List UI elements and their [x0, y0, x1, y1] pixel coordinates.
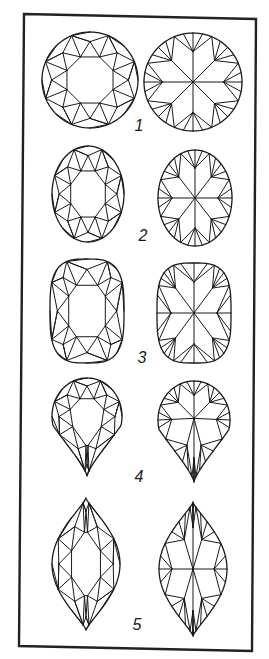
facet-edge: [179, 154, 181, 177]
facet-edge: [94, 395, 107, 399]
facet-edge: [113, 90, 134, 99]
facet-edge: [80, 386, 87, 399]
facet-edge: [195, 164, 221, 198]
marquise-pavilion-drawing: [159, 502, 227, 636]
facet-edge: [223, 82, 238, 101]
facet-edge: [69, 326, 77, 337]
facet-edge: [183, 112, 193, 130]
facet-edge: [86, 625, 89, 630]
facet-edge: [76, 456, 85, 471]
facet-edge: [159, 198, 172, 207]
facet-edge: [223, 82, 241, 92]
facet-edge: [193, 37, 212, 52]
facet-edge: [95, 204, 105, 218]
facet-edge: [193, 47, 228, 82]
round-brilliant-pavilion-drawing: [144, 33, 242, 131]
facet-edge: [105, 184, 117, 194]
facet-edge: [161, 405, 172, 419]
facet-edge: [188, 151, 195, 168]
facet-edge: [89, 503, 97, 527]
facet-edge: [180, 384, 194, 395]
facet-edge: [55, 204, 71, 213]
facet-edge: [67, 90, 81, 104]
facet-edge: [195, 228, 209, 243]
facet-edge: [105, 194, 117, 204]
facet-edge: [87, 337, 98, 353]
facet-edge: [71, 171, 81, 185]
figure-number-label: 3: [138, 349, 147, 366]
facet-edge: [90, 36, 108, 42]
facet-edge: [195, 151, 202, 168]
facet-edge: [71, 204, 81, 218]
facet-edge: [214, 61, 238, 64]
facet-edge: [148, 63, 163, 82]
facet-edge: [76, 269, 87, 285]
facet-edge: [216, 412, 229, 419]
facet-edge: [98, 285, 106, 296]
facet-edge: [68, 167, 81, 171]
facet-edge: [202, 540, 221, 544]
pear-pavilion-drawing: [158, 381, 230, 482]
facet-edge: [63, 90, 67, 108]
facet-edge: [63, 103, 81, 107]
facet-edge: [212, 37, 215, 61]
facet-edge: [100, 57, 114, 71]
facet-edge: [193, 34, 203, 52]
facet-edge: [218, 189, 231, 198]
facet-edge: [88, 217, 95, 232]
oval-crown-drawing: [52, 146, 124, 242]
facet-edge: [218, 198, 231, 207]
facet-edge: [72, 103, 81, 124]
facet-edge: [179, 219, 181, 242]
facet-edge: [75, 527, 85, 533]
facet-edge: [181, 228, 195, 243]
facet-edge: [158, 82, 193, 117]
facet-edge: [58, 564, 59, 589]
facet-edge: [52, 70, 67, 80]
facet-edge: [55, 176, 71, 185]
facet-edge: [68, 167, 71, 185]
facet-edge: [95, 217, 102, 238]
facet-edge: [113, 90, 117, 108]
facet-edge: [105, 167, 108, 185]
facet-edge: [46, 62, 67, 71]
facet-edge: [78, 446, 86, 449]
facet-edge: [101, 427, 114, 435]
facet-edge: [90, 103, 100, 118]
facet-edge: [94, 381, 100, 399]
facet-edge: [193, 112, 203, 130]
facet-edge: [69, 285, 77, 296]
facet-edge: [68, 204, 71, 222]
facet-edge: [158, 47, 193, 82]
facet-edge: [172, 37, 175, 61]
facet-edge: [94, 399, 104, 410]
oval-pavilion-drawing: [158, 150, 232, 246]
facet-edge: [46, 62, 52, 80]
facet-edge: [70, 399, 80, 410]
facet-edge: [223, 63, 238, 82]
facet-edge: [107, 345, 111, 361]
cut-row-oval: 2: [52, 146, 232, 246]
facet-edge: [59, 564, 72, 577]
facet-edge: [195, 198, 221, 232]
facet-edge: [208, 384, 210, 402]
facet-edge: [100, 539, 113, 551]
facet-edge: [70, 409, 73, 426]
facet-edge: [128, 62, 134, 80]
facet-edge: [67, 57, 81, 71]
figure-number-label: 1: [135, 117, 144, 134]
facet-edge: [172, 103, 175, 127]
facet-edge: [181, 154, 195, 169]
facet-edge: [145, 82, 163, 92]
girdle-outline: [50, 259, 124, 363]
facet-edge: [100, 589, 114, 610]
cut-row-cushion: 3: [50, 259, 231, 366]
facet-edge: [100, 577, 113, 589]
facet-edge: [169, 392, 194, 418]
facet-edge: [76, 337, 87, 353]
facet-edge: [113, 80, 128, 90]
facet-edge: [74, 217, 81, 238]
facet-edge: [87, 269, 98, 285]
facet-edge: [95, 171, 105, 185]
facet-edge: [202, 595, 221, 599]
